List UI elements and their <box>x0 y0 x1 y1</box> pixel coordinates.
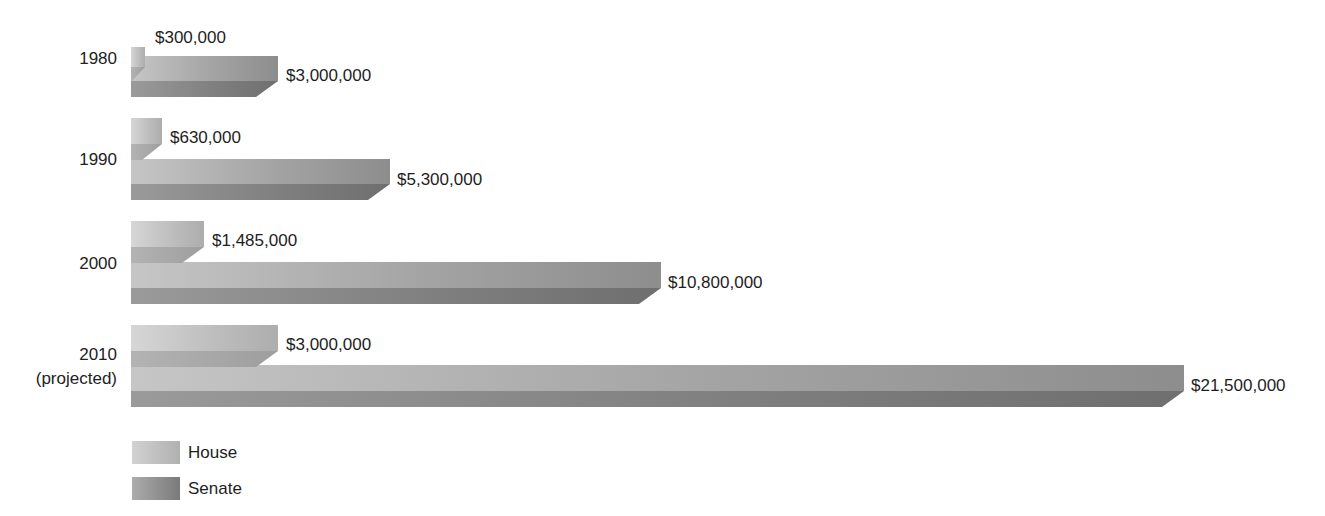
value-label-house-2010: $3,000,000 <box>286 335 371 355</box>
bar-house-1980 <box>131 47 145 82</box>
bar-house-2000 <box>131 221 204 263</box>
category-label-2010-note: (projected) <box>36 369 117 389</box>
bar-house-2010 <box>131 325 278 367</box>
bar-senate-2000 <box>131 262 661 304</box>
category-label-2000: 2000 <box>79 254 117 274</box>
value-label-senate-1980: $3,000,000 <box>286 66 371 86</box>
category-label-1990: 1990 <box>79 150 117 170</box>
bar-senate-1980 <box>131 56 278 97</box>
value-label-house-1990: $630,000 <box>170 128 241 148</box>
value-label-senate-2000: $10,800,000 <box>668 273 763 293</box>
legend-swatch-senate <box>132 477 180 500</box>
value-label-house-2000: $1,485,000 <box>212 231 297 251</box>
value-label-senate-2010: $21,500,000 <box>1191 376 1286 396</box>
bar-senate-1990 <box>131 159 390 200</box>
legend-label-house: House <box>188 443 237 463</box>
bar-senate-2010 <box>131 365 1184 407</box>
bar-house-1990 <box>131 118 162 160</box>
category-label-1980: 1980 <box>79 49 117 69</box>
value-label-house-1980: $300,000 <box>155 28 226 48</box>
legend-swatch-house <box>132 441 180 464</box>
category-label-2010: 2010 <box>79 345 117 365</box>
value-label-senate-1990: $5,300,000 <box>397 170 482 190</box>
legend-label-senate: Senate <box>188 479 242 499</box>
bar-chart: 1980 1990 2000 2010 (projected) $300,000… <box>0 0 1325 516</box>
